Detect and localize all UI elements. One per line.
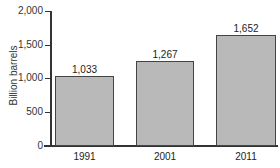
x-tick-label-2001: 2001 bbox=[136, 151, 194, 162]
y-tick-label: 1,500 bbox=[9, 39, 43, 50]
bar-2001 bbox=[136, 61, 194, 146]
y-tick bbox=[45, 78, 51, 79]
y-tick-label: 500 bbox=[9, 106, 43, 117]
y-tick bbox=[45, 146, 51, 147]
x-tick-label-1991: 1991 bbox=[55, 151, 114, 162]
y-tick bbox=[45, 45, 51, 46]
y-tick-label: 1,000 bbox=[9, 72, 43, 83]
y-tick bbox=[45, 11, 51, 12]
y-tick-label: 0 bbox=[9, 140, 43, 151]
x-tick-label-2011: 2011 bbox=[216, 151, 276, 162]
bar-2011 bbox=[216, 35, 276, 146]
bar-chart: Billion barrels 2,000 1,500 1,000 500 0 … bbox=[0, 0, 280, 168]
value-label-1991: 1,033 bbox=[55, 64, 114, 75]
value-label-2011: 1,652 bbox=[216, 23, 276, 34]
y-tick-label: 2,000 bbox=[9, 5, 43, 16]
value-label-2001: 1,267 bbox=[136, 49, 194, 60]
y-tick bbox=[45, 112, 51, 113]
bar-1991 bbox=[55, 76, 114, 146]
